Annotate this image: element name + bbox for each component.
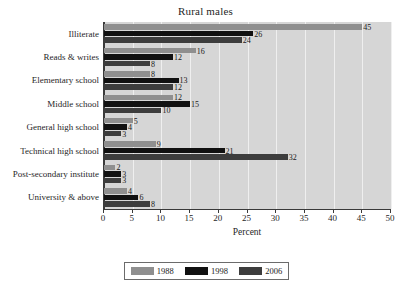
bar-value-1988-middle-school: 12	[174, 93, 182, 102]
bar-value-1998-middle-school: 15	[191, 99, 199, 108]
bar-1988-reads-writes	[104, 48, 196, 54]
x-tick-label-40: 40	[328, 213, 337, 223]
legend-swatch-1998	[185, 267, 208, 275]
bar-value-1988-technical-high-school: 9	[157, 140, 161, 149]
category-label-technical-high-school: Technical high school	[20, 146, 99, 156]
bar-value-1988-university-above: 4	[128, 186, 132, 195]
plot-inner	[104, 22, 391, 209]
category-label-university-above: University & above	[28, 192, 99, 202]
bar-1998-middle-school	[104, 101, 190, 107]
legend-label-1998: 1998	[211, 266, 228, 276]
legend-swatch-1988	[131, 267, 154, 275]
x-tick-label-10: 10	[156, 213, 165, 223]
bar-value-2006-university-above: 8	[151, 199, 155, 208]
x-tick-label-5: 5	[129, 213, 134, 223]
legend-swatch-2006	[239, 267, 262, 275]
chart-legend: 198819982006	[124, 262, 289, 280]
bar-value-1988-elementary-school: 8	[151, 69, 155, 78]
x-tick-label-20: 20	[213, 213, 222, 223]
bar-1998-post-secondary-institute	[104, 171, 121, 177]
bar-1988-technical-high-school	[104, 141, 156, 147]
bar-1988-elementary-school	[104, 71, 150, 77]
bar-2006-reads-writes	[104, 61, 150, 67]
category-label-middle-school: Middle school	[47, 99, 99, 109]
legend-item-2006[interactable]: 2006	[239, 266, 282, 276]
gridline-40	[334, 22, 335, 209]
gridline-30	[276, 22, 277, 209]
gridline-45	[362, 22, 363, 209]
category-label-illiterate: Illiterate	[69, 29, 99, 39]
category-label-elementary-school: Elementary school	[32, 75, 99, 85]
bar-1988-post-secondary-institute	[104, 165, 115, 171]
bar-1988-university-above	[104, 188, 127, 194]
bar-value-1988-illiterate: 45	[363, 23, 371, 32]
x-tick-label-50: 50	[386, 213, 395, 223]
gridline-50	[391, 22, 392, 209]
plot-area	[103, 22, 391, 209]
bar-value-1998-university-above: 6	[139, 193, 143, 202]
category-label-reads-writes: Reads & writes	[44, 52, 100, 62]
bar-2006-illiterate	[104, 37, 242, 43]
bar-value-2006-middle-school: 10	[162, 106, 170, 115]
bar-1998-technical-high-school	[104, 148, 225, 154]
legend-item-1998[interactable]: 1998	[185, 266, 228, 276]
bar-1988-illiterate	[104, 24, 362, 30]
bar-value-1988-reads-writes: 16	[197, 46, 205, 55]
bar-value-1998-reads-writes: 12	[174, 53, 182, 62]
bar-value-2006-post-secondary-institute: 3	[122, 176, 126, 185]
bar-2006-general-high-school	[104, 131, 121, 137]
bar-value-2006-technical-high-school: 32	[289, 153, 297, 162]
bar-2006-university-above	[104, 201, 150, 207]
bar-1988-middle-school	[104, 95, 173, 101]
bar-2006-middle-school	[104, 108, 161, 114]
bar-2006-elementary-school	[104, 84, 173, 90]
bar-value-1998-illiterate: 26	[254, 29, 262, 38]
chart-figure: Rural males Percent 198819982006 0510152…	[0, 0, 411, 290]
chart-title: Rural males	[0, 5, 411, 17]
bar-value-1998-technical-high-school: 21	[226, 146, 234, 155]
bar-2006-technical-high-school	[104, 154, 288, 160]
bar-2006-post-secondary-institute	[104, 178, 121, 184]
bar-1998-illiterate	[104, 31, 253, 37]
legend-label-1988: 1988	[157, 266, 174, 276]
bar-value-1998-general-high-school: 4	[128, 123, 132, 132]
bar-1998-reads-writes	[104, 54, 173, 60]
x-tick-label-25: 25	[242, 213, 251, 223]
category-label-general-high-school: General high school	[27, 122, 99, 132]
x-tick-label-30: 30	[271, 213, 280, 223]
x-tick-label-35: 35	[299, 213, 308, 223]
x-axis-title: Percent	[103, 227, 391, 237]
gridline-20	[219, 22, 220, 209]
bar-value-2006-reads-writes: 8	[151, 59, 155, 68]
category-label-post-secondary-institute: Post-secondary institute	[13, 169, 99, 179]
bar-value-2006-general-high-school: 3	[122, 129, 126, 138]
gridline-35	[305, 22, 306, 209]
bar-value-2006-illiterate: 24	[243, 36, 251, 45]
bar-1998-university-above	[104, 195, 138, 201]
bar-value-2006-elementary-school: 12	[174, 82, 182, 91]
x-tick-label-15: 15	[185, 213, 194, 223]
x-tick-label-0: 0	[101, 213, 106, 223]
gridline-25	[248, 22, 249, 209]
bar-value-1988-general-high-school: 5	[134, 116, 138, 125]
x-tick-label-45: 45	[357, 213, 366, 223]
legend-item-1988[interactable]: 1988	[131, 266, 174, 276]
bar-value-1988-post-secondary-institute: 2	[116, 163, 120, 172]
legend-label-2006: 2006	[265, 266, 282, 276]
bar-1998-elementary-school	[104, 78, 179, 84]
